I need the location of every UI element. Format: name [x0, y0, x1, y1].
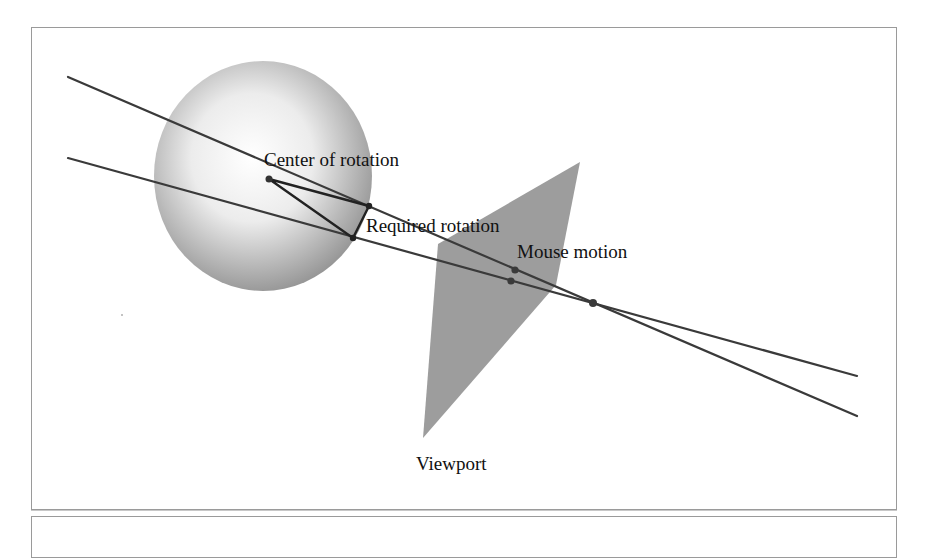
rotation-lower-point	[350, 235, 356, 241]
viewport-plane	[423, 162, 580, 438]
eye-convergence-point	[589, 299, 597, 307]
center-of-rotation-label: Center of rotation	[264, 149, 400, 170]
required-rotation-label: Required rotation	[366, 215, 500, 236]
mouse-motion-label: Mouse motion	[517, 241, 628, 262]
stray-dot	[121, 314, 123, 316]
rotation-sphere	[154, 61, 372, 291]
mouse-upper-point	[511, 266, 518, 273]
mouse-lower-point	[507, 277, 514, 284]
center-of-rotation-point	[266, 176, 273, 183]
rotation-upper-point	[366, 203, 372, 209]
viewport-label: Viewport	[416, 453, 487, 474]
